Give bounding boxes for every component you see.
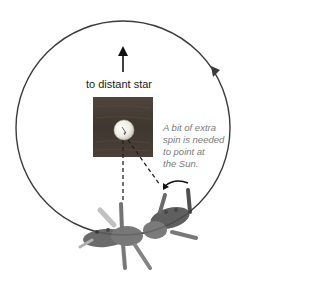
extra-spin-arrow <box>165 181 188 186</box>
lizard-figure-right <box>143 190 196 239</box>
note-line-2: spin is needed <box>163 134 224 146</box>
extra-spin-note: A bit of extra spin is needed to point a… <box>163 122 224 170</box>
note-line-4: the Sun. <box>163 158 224 170</box>
distant-star-label: to distant star <box>86 78 152 90</box>
lizard-figure-left <box>80 204 150 268</box>
note-line-3: to point at <box>163 146 224 158</box>
star-arrowhead-icon <box>118 46 128 56</box>
note-line-1: A bit of extra <box>163 122 224 134</box>
